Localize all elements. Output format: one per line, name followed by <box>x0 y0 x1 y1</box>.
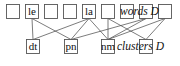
word-node-1 <box>7 5 20 19</box>
cluster-label: pn <box>66 40 78 52</box>
word-label: la <box>85 5 93 17</box>
word-node-3 <box>45 5 58 19</box>
word-node-le: le <box>26 5 39 19</box>
edge-w9-c3 <box>108 19 165 40</box>
words-clusters-diagram: lela dtpnnm words D clusters D <box>0 0 180 66</box>
word-node-6 <box>102 5 115 19</box>
edge-w2-c2 <box>32 19 71 40</box>
cluster-label: nm <box>101 40 116 52</box>
word-node-9 <box>159 5 172 19</box>
cluster-node-pn: pn <box>65 40 78 54</box>
word-box <box>64 5 77 19</box>
word-box <box>102 5 115 19</box>
edge-w5-c1 <box>33 19 89 40</box>
word-box <box>159 5 172 19</box>
cluster-label: dt <box>29 40 38 52</box>
word-node-la: la <box>83 5 96 19</box>
word-label: le <box>28 5 36 17</box>
edge-w5-c3 <box>89 19 108 40</box>
edge-layer <box>32 19 165 40</box>
word-box <box>45 5 58 19</box>
edge-w2-c1 <box>32 19 33 40</box>
edge-w8-c2 <box>71 19 146 40</box>
cluster-node-dt: dt <box>27 40 40 54</box>
cluster-node-nm: nm <box>101 40 116 54</box>
word-box <box>7 5 20 19</box>
word-node-4 <box>64 5 77 19</box>
words-caption: words D <box>120 5 160 17</box>
clusters-caption: clusters D <box>117 40 165 52</box>
